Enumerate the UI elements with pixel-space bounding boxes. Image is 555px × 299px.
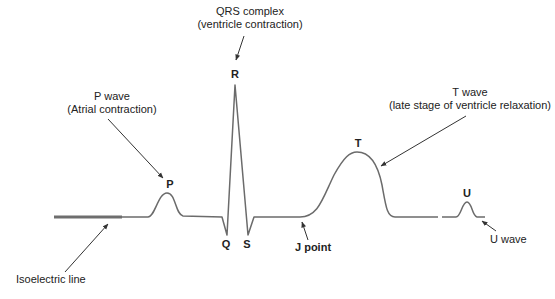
p-wave-title: P wave [57,90,167,103]
p-wave-subtitle: (Atrial contraction) [57,103,167,116]
isoelectric-arrow [65,224,108,272]
qrs-title: QRS complex [188,5,312,18]
qrs-arrow [236,36,244,60]
u-wave-arrow [482,221,496,231]
label-r: R [231,68,239,80]
t-wave-arrow [381,116,466,166]
label-s: S [243,238,250,250]
t-wave-annotation: T wave (late stage of ventricle relaxati… [385,86,555,112]
label-u: U [463,187,471,199]
t-wave-title: T wave [385,86,555,99]
label-q: Q [222,238,231,250]
ecg-trace-u [442,202,485,217]
j-point-label: J point [295,241,331,254]
j-point-arrow [302,222,308,240]
qrs-annotation: QRS complex (ventricle contraction) [188,5,312,31]
u-wave-label: U wave [490,233,527,246]
label-p: P [166,178,173,190]
ecg-diagram [0,0,555,299]
p-wave-annotation: P wave (Atrial contraction) [57,90,167,116]
label-t: T [355,137,362,149]
t-wave-subtitle: (late stage of ventricle relaxation) [385,99,555,112]
isoelectric-label: Isoelectric line [16,273,86,286]
p-wave-arrow [108,119,163,178]
qrs-subtitle: (ventricle contraction) [188,18,312,31]
